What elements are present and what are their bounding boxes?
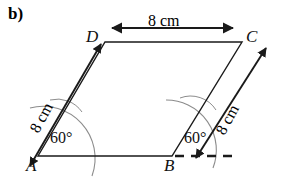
vertex-label-b: B (164, 156, 174, 176)
angle-label-b: 60° (184, 129, 206, 147)
vertex-label-c: C (246, 27, 257, 47)
vertex-label-d: D (86, 27, 98, 47)
angle-label-a: 60° (50, 129, 72, 147)
construction-cross-arc-at-b (180, 96, 216, 110)
top-dimension-label: 8 cm (148, 12, 180, 30)
vertex-label-a: A (26, 156, 36, 176)
figure-canvas: b) A B C D 8 cm 8 cm 8 cm (0, 0, 283, 187)
geometry-diagram (0, 0, 283, 187)
